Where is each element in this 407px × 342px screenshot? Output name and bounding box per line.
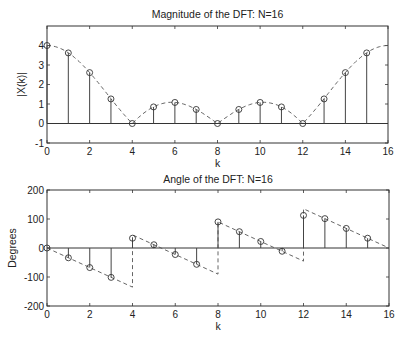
y-tick-label: 4 <box>38 40 44 51</box>
y-tick-label: -1 <box>35 138 44 149</box>
x-tick-label: 0 <box>44 309 50 320</box>
x-tick-label: 2 <box>87 146 93 157</box>
x-tick-label: 4 <box>130 309 136 320</box>
y-tick-label: 1 <box>38 99 44 110</box>
axes-box <box>47 26 388 143</box>
y-tick-label: 0 <box>38 118 44 129</box>
magnitude-plot: Magnitude of the DFT: N=160246810121416-… <box>15 8 394 169</box>
x-tick-label: 6 <box>172 309 178 320</box>
x-tick-label: 10 <box>255 146 267 157</box>
y-axis-label: Degrees <box>6 228 18 268</box>
y-tick-label: 0 <box>38 243 44 254</box>
y-tick-label: 3 <box>38 60 44 71</box>
x-tick-label: 8 <box>215 309 221 320</box>
x-tick-label: 12 <box>297 146 309 157</box>
x-axis-label: k <box>215 157 221 169</box>
y-tick-label: 2 <box>38 79 44 90</box>
x-tick-label: 0 <box>44 146 50 157</box>
dtft-dashed-curve <box>47 46 388 124</box>
figure: Magnitude of the DFT: N=160246810121416-… <box>0 0 407 342</box>
chart-title: Magnitude of the DFT: N=16 <box>152 8 284 20</box>
x-axis-label: k <box>215 320 221 332</box>
y-tick-label: -100 <box>24 272 44 283</box>
x-tick-label: 8 <box>215 146 221 157</box>
x-tick-label: 16 <box>382 146 394 157</box>
x-tick-label: 14 <box>341 309 353 320</box>
y-tick-label: -200 <box>24 301 44 312</box>
chart-title: Angle of the DFT: N=16 <box>163 173 273 185</box>
x-tick-label: 12 <box>298 309 310 320</box>
angle-plot: Angle of the DFT: N=160246810121416-200-… <box>6 173 395 332</box>
x-tick-label: 10 <box>255 309 267 320</box>
y-axis-label: |X(k)| <box>15 72 27 97</box>
x-tick-label: 4 <box>129 146 135 157</box>
y-tick-label: 200 <box>27 185 44 196</box>
y-tick-label: 100 <box>27 214 44 225</box>
x-tick-label: 16 <box>383 309 395 320</box>
x-tick-label: 2 <box>87 309 93 320</box>
x-tick-label: 6 <box>172 146 178 157</box>
x-tick-label: 14 <box>340 146 352 157</box>
